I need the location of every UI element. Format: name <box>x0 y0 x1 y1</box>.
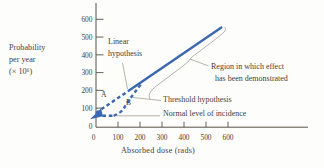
y-axis-title-line2: per year <box>9 54 45 66</box>
annotation-normal-level: Normal level of incidence <box>163 109 246 118</box>
x-tick-label: 500 <box>200 133 211 142</box>
y-tick-label: 400 <box>81 51 92 60</box>
x-tick-label: 400 <box>178 133 189 142</box>
y-tick-label: 600 <box>81 15 92 24</box>
x-tick-label: 100 <box>112 133 123 142</box>
annotation-linear-line2: hypothesis <box>108 48 142 60</box>
annotation-linear-line1: Linear <box>108 36 142 48</box>
y-axis-title-line3: (× 10⁶) <box>9 66 45 78</box>
annotation-region-line1: Region in which effect <box>211 61 288 73</box>
x-tick-label: 300 <box>156 133 167 142</box>
x-tick-label: 600 <box>222 133 233 142</box>
leader-linear-hypothesis <box>123 63 128 89</box>
y-axis-title-line1: Probability <box>9 42 45 54</box>
chart-canvas: 01002003004005006000100200300400500600 <box>0 0 324 168</box>
x-tick-label: 200 <box>134 133 145 142</box>
annotation-threshold-hypothesis: Threshold hypothesis <box>163 95 232 104</box>
x-axis-title: Absorbed dose (rads) <box>121 146 195 155</box>
leader-region-demonstrated <box>190 59 209 66</box>
dose-effect-figure: 01002003004005006000100200300400500600 P… <box>0 0 324 168</box>
x-tick-label: 0 <box>92 133 96 142</box>
y-tick-label: 500 <box>81 33 92 42</box>
annotation-region-demonstrated: Region in which effect has been demonstr… <box>211 61 288 84</box>
y-tick-label: 100 <box>81 104 92 113</box>
annotation-region-line2: has been demonstrated <box>211 73 288 85</box>
leader-threshold-hypothesis <box>133 98 161 101</box>
annotation-linear-hypothesis: Linear hypothesis <box>108 36 142 59</box>
y-tick-label: 200 <box>81 86 92 95</box>
y-axis-title: Probability per year (× 10⁶) <box>9 42 45 78</box>
y-tick-label: 0 <box>89 122 93 131</box>
curve-label-b: B <box>126 98 131 107</box>
y-tick-label: 300 <box>81 68 92 77</box>
curve-label-a: A <box>101 90 106 99</box>
